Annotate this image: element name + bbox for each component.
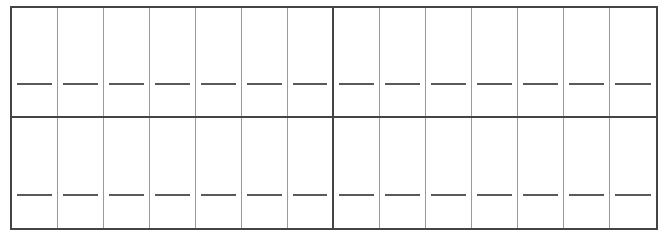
blank-line <box>615 194 651 196</box>
blank-line <box>109 194 144 196</box>
grid-cell[interactable] <box>610 118 656 228</box>
blank-line <box>523 194 558 196</box>
blank-line <box>385 83 420 85</box>
grid-cell[interactable] <box>104 8 150 116</box>
grid-cell[interactable] <box>518 118 564 228</box>
grid-cell[interactable] <box>12 118 58 228</box>
blank-line <box>477 83 512 85</box>
grid-cell[interactable] <box>242 118 288 228</box>
grid-cell[interactable] <box>472 118 518 228</box>
blank-line <box>247 83 282 85</box>
grid-cell[interactable] <box>288 8 334 116</box>
blank-line <box>569 194 604 196</box>
grid-cell[interactable] <box>58 118 104 228</box>
blank-line <box>431 83 466 85</box>
grid-cell[interactable] <box>150 118 196 228</box>
blank-line <box>63 83 98 85</box>
grid-cell[interactable] <box>242 8 288 116</box>
grid-cell[interactable] <box>334 8 380 116</box>
grid-cell[interactable] <box>12 8 58 116</box>
blank-line <box>339 194 374 196</box>
grid-cell[interactable] <box>564 118 610 228</box>
blank-line <box>155 194 190 196</box>
grid-cell[interactable] <box>610 8 656 116</box>
grid-cell[interactable] <box>380 118 426 228</box>
blank-line <box>17 194 52 196</box>
blank-line <box>293 83 327 85</box>
grid-cell[interactable] <box>150 8 196 116</box>
grid-cell[interactable] <box>58 8 104 116</box>
blank-line <box>339 83 374 85</box>
grid-cell[interactable] <box>196 8 242 116</box>
grid-cell[interactable] <box>104 118 150 228</box>
writing-grid <box>10 6 658 230</box>
blank-line <box>477 194 512 196</box>
grid-cell[interactable] <box>196 118 242 228</box>
blank-line <box>17 83 52 85</box>
blank-line <box>63 194 98 196</box>
blank-line <box>431 194 466 196</box>
blank-line <box>155 83 190 85</box>
blank-line <box>569 83 604 85</box>
grid-cell[interactable] <box>426 8 472 116</box>
grid-row-2 <box>12 118 656 228</box>
blank-line <box>247 194 282 196</box>
grid-cell[interactable] <box>288 118 334 228</box>
grid-cell[interactable] <box>472 8 518 116</box>
blank-line <box>109 83 144 85</box>
blank-line <box>615 83 651 85</box>
grid-cell[interactable] <box>426 118 472 228</box>
grid-row-1 <box>12 8 656 118</box>
blank-line <box>201 194 236 196</box>
grid-cell[interactable] <box>334 118 380 228</box>
blank-line <box>293 194 327 196</box>
grid-cell[interactable] <box>518 8 564 116</box>
blank-line <box>201 83 236 85</box>
blank-line <box>523 83 558 85</box>
grid-cell[interactable] <box>564 8 610 116</box>
blank-line <box>385 194 420 196</box>
grid-cell[interactable] <box>380 8 426 116</box>
